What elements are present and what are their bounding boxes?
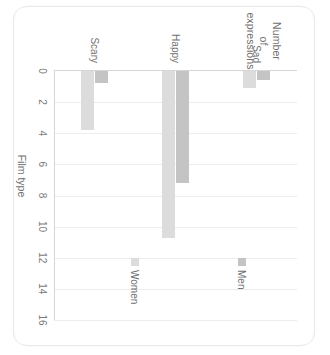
plot-area: 0246810121416SadHappyScary bbox=[54, 70, 297, 320]
bar-men-happy bbox=[176, 71, 189, 183]
value-axis-tick-label: 6 bbox=[37, 162, 48, 168]
value-axis-tick-label: 16 bbox=[37, 314, 48, 325]
bar-women-happy bbox=[162, 71, 175, 238]
category-group: Scary bbox=[54, 71, 135, 320]
bar-men-sad bbox=[257, 71, 270, 80]
category-axis-label: Scary bbox=[89, 37, 100, 63]
category-group: Happy bbox=[135, 71, 216, 320]
gridline bbox=[54, 320, 297, 321]
value-axis-title: Number of expressions bbox=[244, 12, 283, 70]
value-axis-tick-label: 4 bbox=[37, 130, 48, 136]
bar-chart: Number of expressions Film type 02468101… bbox=[15, 8, 313, 344]
value-axis-title-line-1: Number bbox=[270, 12, 283, 70]
bar-women-scary bbox=[81, 71, 94, 130]
chart-card: Number of expressions Film type 02468101… bbox=[13, 6, 315, 346]
value-axis-tick-label: 10 bbox=[37, 221, 48, 232]
category-axis-label: Happy bbox=[170, 34, 181, 63]
value-axis-tick-label: 2 bbox=[37, 99, 48, 105]
value-axis-tick-label: 8 bbox=[37, 193, 48, 199]
value-axis-tick-label: 12 bbox=[37, 252, 48, 263]
page-root: Number of expressions Film type 02468101… bbox=[0, 0, 330, 355]
value-axis-tick-label: 14 bbox=[37, 283, 48, 294]
category-axis-title: Film type bbox=[16, 8, 28, 344]
rotated-chart-wrapper: Number of expressions Film type 02468101… bbox=[15, 8, 313, 344]
bar-women-sad bbox=[243, 71, 256, 88]
category-axis-label: Sad bbox=[251, 45, 262, 63]
category-group: Sad bbox=[216, 71, 297, 320]
value-axis-tick-label: 0 bbox=[37, 68, 48, 74]
bar-men-scary bbox=[95, 71, 108, 83]
